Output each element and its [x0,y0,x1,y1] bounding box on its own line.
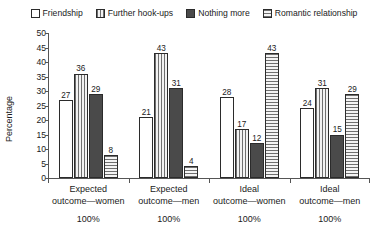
legend-item-label: Friendship [43,9,83,18]
x-axis-tick-mark [129,179,130,183]
y-axis-tick-label: 0 [16,174,46,183]
bar-value-label: 31 [172,80,181,88]
legend-item-label: Nothing more [198,9,250,18]
y-axis-tick-mark [45,135,49,136]
bar[interactable]: 4 [184,166,198,178]
bar[interactable]: 27 [59,100,73,178]
bar[interactable]: 43 [154,53,168,178]
y-axis-tick-mark [45,120,49,121]
y-axis-tick-mark [45,149,49,150]
bar[interactable]: 21 [139,117,153,178]
bar[interactable]: 43 [265,53,279,178]
x-axis-category-total: 100% [290,215,371,224]
x-axis-tick-mark [48,179,49,183]
y-axis-tick-labels: 05101520253035404550 [16,26,46,241]
bar-value-label: 4 [189,158,194,166]
bar-value-label: 15 [333,126,342,134]
plot-area: Percentage 05101520253035404550 27362982… [0,26,388,241]
bar-value-label: 43 [267,45,276,53]
bar[interactable]: 12 [250,143,264,178]
y-axis-tick-mark [45,91,49,92]
x-axis-category-label-line: outcome—women [48,196,129,208]
y-axis-tick-label: 50 [16,29,46,38]
bars-layer: 273629821433142817124324311529 [48,26,370,178]
bar[interactable]: 31 [315,88,329,178]
x-axis-category-label-line: outcome—men [129,196,210,208]
y-axis-tick-mark [45,62,49,63]
bar-group: 2736298 [48,26,129,178]
chart-legend: FriendshipFurther hook-upsNothing moreRo… [0,0,388,26]
x-axis-tick-mark [290,179,291,183]
x-axis-category-label-line: Ideal [290,184,371,196]
bar-chart: FriendshipFurther hook-upsNothing moreRo… [0,0,388,241]
bar-group: 2143314 [129,26,210,178]
y-axis-tick-label: 40 [16,58,46,67]
legend-item-label: Romantic relationship [275,9,358,18]
bar-value-label: 12 [252,135,261,143]
legend-item-label: Further hook-ups [108,9,173,18]
y-axis-tick-label: 25 [16,101,46,110]
x-axis-category-label-line: Ideal [209,184,290,196]
y-axis-title: Percentage [2,59,16,179]
y-axis-tick-mark [45,106,49,107]
bar-value-label: 21 [142,109,151,117]
legend-item-nothing-more[interactable]: Nothing more [186,9,250,18]
bar-group: 28171243 [209,26,290,178]
bar-group: 24311529 [290,26,371,178]
legend-item-further-hook-ups[interactable]: Further hook-ups [96,9,173,18]
bar-value-label: 29 [348,86,357,94]
x-axis-category-label: Expectedoutcome—men100% [129,184,210,224]
y-axis-tick-label: 30 [16,87,46,96]
bar[interactable]: 8 [104,155,118,178]
bar-value-label: 24 [303,100,312,108]
bar[interactable]: 36 [74,74,88,178]
bar-value-label: 36 [76,65,85,73]
x-axis-category-label-line: Expected [48,184,129,196]
legend-swatch-icon [96,9,105,18]
x-axis-tick-mark [369,179,370,183]
y-axis-tick-mark [45,164,49,165]
legend-item-romantic-relationship[interactable]: Romantic relationship [263,9,358,18]
y-axis-tick-label: 20 [16,116,46,125]
x-axis-category-label-line: outcome—women [209,196,290,208]
x-axis-category-label-line: outcome—men [290,196,371,208]
bar[interactable]: 28 [220,97,234,178]
legend-swatch-icon [31,9,40,18]
bar-value-label: 27 [61,92,70,100]
bar-value-label: 29 [91,86,100,94]
x-axis-tick-mark [209,179,210,183]
y-axis-tick-mark [45,48,49,49]
bar[interactable]: 31 [169,88,183,178]
y-axis-tick-mark [45,33,49,34]
y-axis-tick-label: 45 [16,43,46,52]
bar[interactable]: 24 [300,108,314,178]
y-axis-tick-label: 5 [16,159,46,168]
y-axis-tick-label: 15 [16,130,46,139]
x-axis-category-label: Idealoutcome—men100% [290,184,371,224]
bar[interactable]: 29 [89,94,103,178]
legend-item-friendship[interactable]: Friendship [31,9,83,18]
bar[interactable]: 15 [330,135,344,179]
x-axis-category-total: 100% [48,215,129,224]
bar-value-label: 43 [157,45,166,53]
x-axis-category-total: 100% [209,215,290,224]
x-axis-category-total: 100% [129,215,210,224]
bar-value-label: 17 [237,121,246,129]
y-axis-tick-label: 35 [16,72,46,81]
x-axis-category-label: Idealoutcome—women100% [209,184,290,224]
x-axis-category-label-line: Expected [129,184,210,196]
legend-swatch-icon [186,9,195,18]
y-axis-tick-label: 10 [16,145,46,154]
bar[interactable]: 29 [345,94,359,178]
bar[interactable]: 17 [235,129,249,178]
bar-value-label: 8 [108,147,113,155]
legend-swatch-icon [263,9,272,18]
bar-value-label: 31 [318,80,327,88]
x-axis-category-labels: Expectedoutcome—women100%Expectedoutcome… [48,184,370,240]
y-axis-tick-mark [45,77,49,78]
x-axis-category-label: Expectedoutcome—women100% [48,184,129,224]
bar-value-label: 28 [222,89,231,97]
y-axis-title-text: Percentage [4,96,14,142]
